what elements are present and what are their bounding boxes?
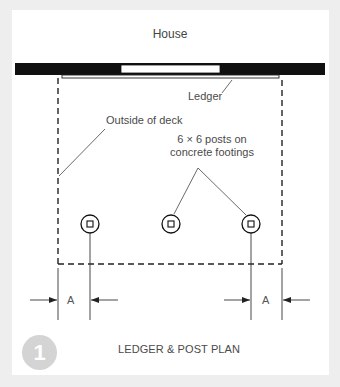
posts-label: 6 × 6 posts on concrete footings <box>152 133 272 159</box>
dimension-a-right-label: A <box>262 294 269 306</box>
house-label: House <box>0 28 340 40</box>
posts-label-line1: 6 × 6 posts on <box>152 133 272 146</box>
ledger-board <box>62 75 279 78</box>
figure-number-badge: 1 <box>22 335 57 370</box>
house-wall <box>15 63 325 75</box>
posts-leader <box>174 168 246 215</box>
outside-of-deck-label: Outside of deck <box>106 114 182 126</box>
post-left-icon <box>81 215 99 233</box>
deck-outline <box>58 78 282 264</box>
post-right-icon <box>242 215 260 233</box>
dimension-a-left-label: A <box>67 294 74 306</box>
ledger-leader <box>222 80 232 93</box>
figure-title: LEDGER & POST PLAN <box>118 343 240 355</box>
post-middle-icon <box>162 215 180 233</box>
outside-deck-leader <box>59 129 105 176</box>
dimension-extension-lines <box>58 233 282 320</box>
posts-label-line2: concrete footings <box>152 146 272 159</box>
ledger-post-plan-diagram <box>0 0 340 387</box>
ledger-label: Ledger <box>188 90 222 102</box>
